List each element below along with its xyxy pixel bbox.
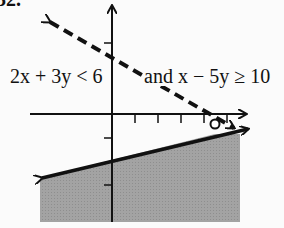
inequality-2-label: and x − 5y ≥ 10: [144, 66, 270, 86]
shaded-region: [40, 134, 240, 222]
inequality-1-label: 2x + 3y < 6: [10, 66, 103, 86]
open-intersection-point: [211, 120, 220, 129]
graph: [0, 0, 284, 228]
